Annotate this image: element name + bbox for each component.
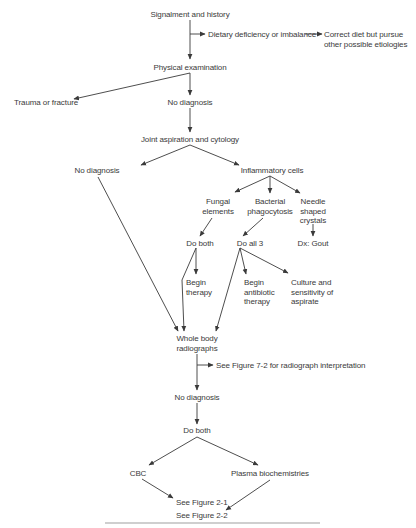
- begin-abx-line1: Begin: [244, 278, 275, 288]
- radiographs-line1: Whole body: [176, 334, 217, 344]
- node-no-diagnosis-3: No diagnosis: [174, 393, 219, 403]
- connector-arrows: [0, 0, 416, 528]
- node-no-diagnosis-2: No diagnosis: [74, 166, 119, 176]
- begin-abx-line3: therapy: [244, 297, 275, 307]
- bacterial-line2: phagocytosis: [247, 207, 293, 217]
- node-begin-antibiotic-therapy: Begin antibiotic therapy: [244, 278, 275, 307]
- node-plasma-biochemistries: Plasma biochemistries: [231, 469, 309, 479]
- node-do-both-2: Do both: [183, 426, 210, 436]
- begin-abx-line2: antibiotic: [244, 288, 275, 298]
- culture-line1: Culture and: [291, 278, 333, 288]
- flowchart-canvas: Signalment and history Dietary deficienc…: [0, 0, 416, 528]
- radiographs-line2: radiographs: [176, 344, 217, 354]
- begin-therapy-line1: Begin: [186, 278, 212, 288]
- bacterial-line1: Bacterial: [247, 197, 293, 207]
- node-joint-aspiration: Joint aspiration and cytology: [141, 135, 239, 145]
- node-correct-diet-line2: other possible etiologies: [324, 40, 407, 50]
- node-dietary-deficiency: Dietary deficiency or imbalance: [208, 30, 316, 40]
- begin-therapy-line2: therapy: [186, 288, 212, 298]
- fungal-line2: elements: [202, 207, 234, 217]
- node-see-figure-2-1: See Figure 2-1: [176, 498, 228, 508]
- needle-line1: Needle: [300, 197, 326, 207]
- node-whole-body-radiographs: Whole body radiographs: [176, 334, 217, 353]
- node-cbc: CBC: [130, 469, 147, 479]
- node-begin-therapy: Begin therapy: [186, 278, 212, 297]
- node-do-both-1: Do both: [186, 239, 213, 249]
- caption-text-fragment: [105, 521, 320, 525]
- needle-line2: shaped: [300, 207, 326, 217]
- node-fungal-elements: Fungal elements: [202, 197, 234, 216]
- node-signalment: Signalment and history: [150, 10, 229, 20]
- node-trauma-fracture: Trauma or fracture: [14, 98, 78, 108]
- node-correct-diet-line1: Correct diet but pursue: [324, 30, 403, 40]
- fungal-line1: Fungal: [202, 197, 234, 207]
- node-do-all-3: Do all 3: [237, 239, 263, 249]
- node-culture-sensitivity: Culture and sensitivity of aspirate: [291, 278, 333, 307]
- culture-line3: aspirate: [291, 297, 333, 307]
- node-bacterial-phagocytosis: Bacterial phagocytosis: [247, 197, 293, 216]
- figure-caption-cropped: [105, 521, 320, 525]
- culture-line2: sensitivity of: [291, 288, 333, 298]
- node-inflammatory-cells: Inflammatory cells: [241, 166, 304, 176]
- node-dx-gout: Dx: Gout: [298, 239, 329, 249]
- node-no-diagnosis-1: No diagnosis: [167, 98, 212, 108]
- node-see-figure-2-2: See Figure 2-2: [176, 511, 228, 521]
- needle-line3: crystals: [300, 216, 326, 226]
- node-needle-crystals: Needle shaped crystals: [300, 197, 326, 226]
- node-physical-examination: Physical examination: [153, 63, 226, 73]
- node-see-figure-7-2: See Figure 7-2 for radiograph interpreta…: [216, 361, 365, 371]
